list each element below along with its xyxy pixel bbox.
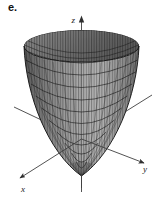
axis-z-arrowhead <box>79 16 84 23</box>
figure-container: e. <box>0 0 163 208</box>
axis-label-y: y <box>142 164 147 174</box>
paraboloid-plot: z y x <box>0 0 163 208</box>
axis-label-x: x <box>20 184 25 194</box>
axis-label-z: z <box>71 15 76 25</box>
